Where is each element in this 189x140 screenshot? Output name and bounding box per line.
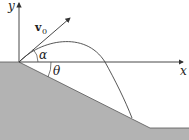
projectile-incline-diagram: y x v 0 α θ — [0, 0, 189, 140]
theta-angle-arc — [48, 62, 51, 77]
theta-label: θ — [53, 64, 61, 78]
velocity-label: v — [34, 21, 42, 34]
y-axis-label: y — [7, 0, 15, 13]
alpha-label: α — [39, 48, 47, 62]
velocity-subscript: 0 — [42, 27, 47, 36]
x-axis-label: x — [180, 64, 187, 78]
